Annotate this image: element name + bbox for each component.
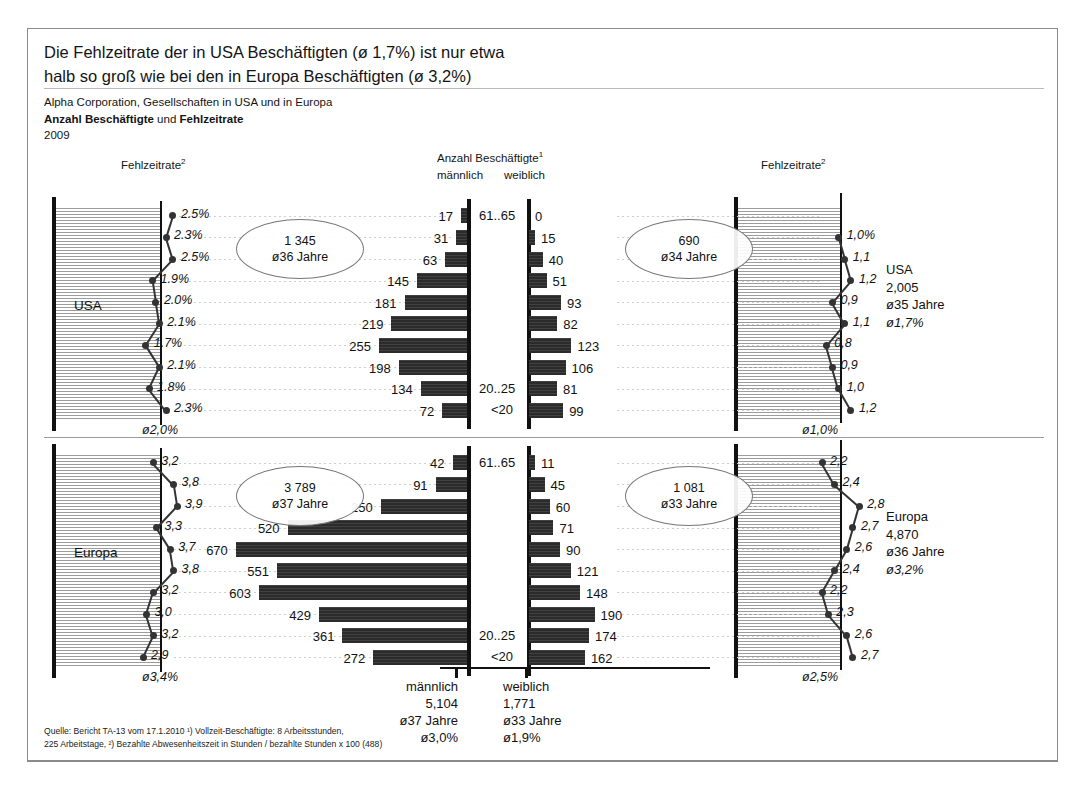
leader-line [174, 216, 451, 217]
rate-line-female-Europa-marker [819, 459, 826, 466]
bar-label-female: 121 [577, 564, 599, 579]
rate-label-male: 2.1% [167, 315, 196, 329]
summary-rate: ø3,2% [886, 561, 945, 579]
rate-label-female: 0,8 [834, 336, 851, 350]
rate-label-male: 1.8% [157, 380, 186, 394]
caption-left-rate: Fehlzeitrate2 [121, 157, 186, 171]
measure-absence-rate: Fehlzeitrate [180, 113, 244, 125]
summary-rate: ø1,7% [886, 314, 945, 332]
rate-label-male: 3,2 [161, 627, 178, 641]
footer-divider [27, 761, 1058, 762]
bar-female [529, 455, 535, 470]
bar-label-male: 181 [375, 296, 397, 311]
age-label-top: 61..65 [479, 455, 515, 470]
rate-label-female: 2,6 [855, 540, 872, 554]
rate-line-female-Europa-marker [831, 481, 838, 488]
rate-line-male-Europa-marker [150, 459, 157, 466]
rate-line-male-USA-marker [163, 407, 170, 414]
bar-label-male: 198 [369, 361, 391, 376]
bar-male [391, 316, 467, 331]
leader-line [617, 281, 820, 282]
totals-female-count: 1,771 [503, 695, 593, 712]
rate-label-male: 2.0% [164, 293, 193, 307]
rate-label-male: 1.7% [154, 336, 183, 350]
rate-label-male: 3,7 [178, 540, 195, 554]
rate-line-female-USA-marker [829, 299, 836, 306]
rate-line-female-USA-marker [841, 256, 848, 263]
rate-label-male: 2.3% [174, 401, 203, 415]
rate-label-female: 2,7 [861, 519, 878, 533]
rate-label-male: 3,8 [182, 562, 199, 576]
bar-label-female: 11 [541, 456, 555, 471]
rate-label-male: 2.3% [174, 228, 203, 242]
totals-bracket-female [525, 667, 710, 670]
bar-male [421, 381, 467, 396]
bar-label-female: 51 [553, 274, 567, 289]
rate-line-male-Europa-marker [150, 589, 157, 596]
callout-female-Europa: 1 081ø33 Jahre [625, 466, 753, 526]
rate-label-male: 3,2 [161, 583, 178, 597]
bar-label-female: 71 [559, 521, 573, 536]
leader-line [617, 463, 820, 464]
rate-line-male-USA-marker [169, 256, 176, 263]
callout-male-age: ø37 Jahre [272, 496, 328, 512]
bar-male [379, 338, 467, 353]
rate-line-male-USA-marker [156, 364, 163, 371]
region-name-USA: USA [74, 298, 102, 313]
bar-label-male: 219 [362, 317, 384, 332]
footnote: Quelle: Bericht TA-13 vom 17.1.2010 ¹) V… [44, 725, 744, 750]
chart-page: Die Fehlzeitrate der in USA Beschäftigte… [0, 0, 1088, 789]
rate-line-male-Europa-marker [143, 611, 150, 618]
leader-line [617, 410, 820, 411]
bar-male [342, 628, 467, 643]
bar-female [529, 338, 571, 353]
subtitle-year: 2009 [44, 127, 944, 144]
bar-male [436, 477, 467, 492]
rate-label-male: 3,3 [165, 519, 182, 533]
bar-label-female: 123 [577, 339, 599, 354]
totals-tick-female [525, 667, 528, 678]
rate-line-female-USA-marker [829, 364, 836, 371]
rate-label-male: 2.5% [181, 207, 210, 221]
subtitle-measures: Anzahl Beschäftigte und Fehlzeitrate [44, 111, 944, 128]
rate-label-female: 1,0 [847, 380, 864, 394]
callout-female-age: ø33 Jahre [661, 496, 717, 512]
callout-male-total: 3 789 [284, 480, 315, 496]
leader-line [617, 216, 820, 217]
leader-line [617, 324, 820, 325]
bar-female [529, 628, 589, 643]
bar-female [529, 295, 561, 310]
rate-line-male-Europa-marker [150, 632, 157, 639]
rate-label-male: 3,2 [161, 454, 178, 468]
bar-label-male: 31 [434, 231, 448, 246]
rate-label-female: 1,0% [847, 228, 876, 242]
bar-label-female: 148 [586, 586, 608, 601]
bar-label-male: 91 [413, 478, 427, 493]
rate-label-female: 1,2 [859, 401, 876, 415]
summary-count: 4,870 [886, 526, 945, 544]
rate-line-male-Europa-marker [140, 654, 147, 661]
rate-label-male: 2.1% [167, 358, 196, 372]
bar-label-female: 81 [563, 382, 577, 397]
leader-line [174, 463, 451, 464]
bar-female [529, 542, 560, 557]
bar-male [319, 607, 467, 622]
summary-name: Europa [886, 508, 945, 526]
summary-age: ø36 Jahre [886, 543, 945, 561]
bar-male [399, 360, 467, 375]
leader-line [617, 389, 820, 390]
rate-label-female: 2,8 [867, 497, 884, 511]
bar-label-female: 40 [549, 253, 563, 268]
bar-female [529, 273, 547, 288]
rate-line-female-USA-marker [835, 234, 842, 241]
totals-female-label: weiblich [503, 678, 593, 695]
rate-label-female: 1,1 [853, 315, 870, 329]
callout-female-USA: 690ø34 Jahre [625, 219, 753, 279]
measure-headcount: Anzahl Beschäftigte [44, 113, 154, 125]
hatched-band-left-USA [56, 208, 160, 420]
caption-male: männlich [437, 169, 483, 181]
subtitle-block: Alpha Corporation, Gesellschaften in USA… [44, 94, 944, 144]
rate-line-male-Europa-marker [174, 503, 181, 510]
leader-line [617, 614, 820, 615]
rate-label-female: 2,7 [861, 648, 878, 662]
